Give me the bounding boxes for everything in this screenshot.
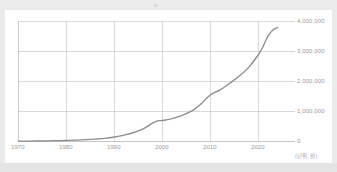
x-tick-label-1970: 1970 xyxy=(11,144,25,150)
x-tick-label-2020: 2020 xyxy=(251,144,265,150)
x-tick-label-2010: 2010 xyxy=(203,144,217,150)
chart-card: 1970 1980 1990 2000 2010 2020 4,000,000 … xyxy=(5,10,332,163)
axis-unit-note: (단위: 원) xyxy=(295,152,317,160)
y-tick-label-0: 0 xyxy=(297,138,300,144)
x-tick-label-1980: 1980 xyxy=(59,144,73,150)
page-bottom-band xyxy=(0,163,337,172)
x-tick-label-2000: 2000 xyxy=(155,144,169,150)
x-tick-label-1990: 1990 xyxy=(107,144,121,150)
y-tick-label-2000000: 2,000,000 xyxy=(297,78,325,84)
data-series-line xyxy=(19,28,278,142)
chart-plot-area xyxy=(5,10,332,163)
page-speck-mark xyxy=(154,4,157,7)
line-chart: 1970 1980 1990 2000 2010 2020 4,000,000 … xyxy=(5,10,332,163)
horizontal-gridlines xyxy=(18,22,289,112)
y-tick-label-3000000: 3,000,000 xyxy=(297,48,325,54)
screenshot-root: 1970 1980 1990 2000 2010 2020 4,000,000 … xyxy=(0,0,337,172)
y-tick-label-1000000: 1,000,000 xyxy=(297,108,325,114)
y-tick-label-4000000: 4,000,000 xyxy=(297,18,325,24)
y-tick-marks xyxy=(289,22,295,112)
